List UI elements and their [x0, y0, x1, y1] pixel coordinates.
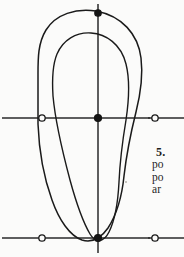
text-line-2: po: [152, 171, 184, 183]
text-line-3: ar: [152, 183, 184, 195]
marker-mid-center: [95, 115, 102, 122]
text-line-1: po: [152, 158, 184, 170]
outer-loop-curve: [38, 10, 142, 241]
marker-bottom-right: [152, 235, 158, 241]
marker-bottom-center: [95, 235, 102, 242]
scanned-page: 5. po po ar: [0, 0, 184, 257]
figure-svg: [0, 0, 150, 257]
marker-top-center: [95, 10, 101, 16]
figure-diagram: [0, 0, 150, 257]
scan-speck: [125, 181, 127, 183]
marker-bottom-left: [39, 235, 45, 241]
body-text-column: 5. po po ar: [152, 146, 184, 208]
marker-mid-left: [39, 115, 45, 121]
marker-mid-right: [152, 115, 158, 121]
text-line-heading: 5.: [152, 146, 184, 158]
